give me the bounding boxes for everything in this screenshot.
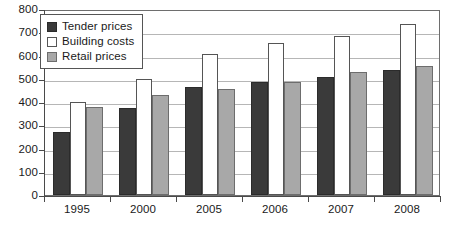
bar-retail-2008 (416, 66, 433, 195)
y-tick-label-500: 500 (4, 74, 38, 86)
bar-retail-2006 (284, 82, 301, 195)
bar-retail-2005 (218, 89, 235, 195)
x-tick-mark-end (440, 197, 441, 202)
bar-building-1995 (70, 102, 87, 195)
bar-building-2005 (202, 54, 219, 195)
bar-building-2008 (400, 24, 417, 195)
x-tick-mark-2007 (308, 197, 309, 202)
x-tick-mark-2000 (110, 197, 111, 202)
legend-label-retail: Retail prices (62, 51, 127, 63)
y-tick-mark-800 (39, 10, 44, 11)
y-tick-label-600: 600 (4, 51, 38, 63)
bar-building-2006 (268, 43, 285, 195)
y-tick-label-400: 400 (4, 97, 38, 109)
x-tick-mark-1995 (44, 197, 45, 202)
y-tick-label-700: 700 (4, 27, 38, 39)
x-tick-label-2007: 2007 (328, 204, 354, 216)
legend-item-retail[interactable]: Retail prices (47, 49, 134, 64)
gridline-400 (45, 104, 439, 105)
legend-item-building[interactable]: Building costs (47, 34, 134, 49)
y-tick-label-200: 200 (4, 144, 38, 156)
gridline-300 (45, 127, 439, 128)
y-tick-label-0: 0 (4, 190, 38, 202)
y-tick-mark-200 (39, 150, 44, 151)
x-tick-mark-2005 (176, 197, 177, 202)
legend-swatch-retail-icon (47, 52, 57, 62)
x-tick-mark-2008 (374, 197, 375, 202)
legend-label-building: Building costs (62, 36, 134, 48)
bar-building-2000 (136, 79, 153, 195)
bar-retail-2007 (350, 72, 367, 195)
x-tick-label-2006: 2006 (262, 204, 288, 216)
x-tick-label-2000: 2000 (130, 204, 156, 216)
gridline-200 (45, 151, 439, 152)
bar-tender-2005 (185, 87, 202, 195)
legend-label-tender: Tender prices (62, 21, 132, 33)
bar-retail-1995 (86, 107, 103, 195)
y-tick-label-100: 100 (4, 167, 38, 179)
bar-tender-2007 (317, 77, 334, 195)
legend-swatch-building-icon (47, 37, 57, 47)
y-tick-mark-400 (39, 103, 44, 104)
y-tick-label-300: 300 (4, 120, 38, 132)
chart-legend: Tender pricesBuilding costsRetail prices (40, 14, 143, 69)
y-tick-label-800: 800 (4, 4, 38, 16)
x-tick-label-2005: 2005 (196, 204, 222, 216)
x-tick-label-1995: 1995 (64, 204, 90, 216)
y-tick-mark-300 (39, 126, 44, 127)
legend-swatch-tender-icon (47, 22, 57, 32)
legend-item-tender[interactable]: Tender prices (47, 19, 134, 34)
bar-tender-2008 (383, 70, 400, 195)
bar-retail-2000 (152, 95, 169, 195)
bar-building-2007 (334, 36, 351, 195)
bar-tender-2006 (251, 82, 268, 195)
x-tick-label-2008: 2008 (394, 204, 420, 216)
y-tick-mark-100 (39, 173, 44, 174)
y-axis-tick-labels: 0100200300400500600700800 (0, 0, 38, 229)
gridline-500 (45, 81, 439, 82)
y-tick-mark-500 (39, 80, 44, 81)
bar-tender-1995 (53, 132, 70, 195)
bar-tender-2000 (119, 108, 136, 195)
bar-chart: 0100200300400500600700800 19952000200520… (0, 0, 450, 229)
x-tick-mark-2006 (242, 197, 243, 202)
gridline-100 (45, 174, 439, 175)
